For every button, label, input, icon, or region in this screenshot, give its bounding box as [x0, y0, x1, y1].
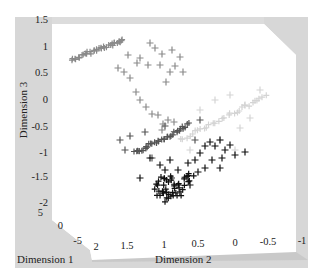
z-tick: 0 [43, 94, 48, 105]
scatter-3d-plot: 1.5 1 0.5 0 -0.5 -1 -1.5 -2 Dimension 3 … [0, 0, 323, 276]
y-tick: -1 [298, 235, 307, 246]
z-tick: -1.5 [31, 171, 48, 182]
y-tick: 1 [161, 239, 166, 250]
y-tick: 1.5 [120, 240, 133, 251]
y-tick: 0 [232, 237, 237, 248]
x-axis-label: Dimension 1 [17, 253, 74, 265]
x-tick: 0 [58, 220, 63, 231]
z-tick: -0.5 [31, 121, 48, 132]
z-tick: -1 [39, 147, 48, 158]
x-tick: 5 [38, 207, 43, 218]
z-tick: 0.5 [35, 67, 48, 78]
plot-area [52, 24, 296, 260]
z-axis-label: Dimension 3 [17, 81, 29, 138]
y-axis-label: Dimension 2 [155, 253, 212, 265]
z-tick: 1.5 [35, 14, 48, 25]
y-tick: 0.5 [191, 238, 204, 249]
y-tick: 2 [93, 241, 98, 252]
back-wall-top [15, 17, 264, 24]
x-tick: -5 [73, 235, 82, 246]
y-tick: -0.5 [260, 236, 277, 247]
z-tick: 1 [43, 41, 48, 52]
